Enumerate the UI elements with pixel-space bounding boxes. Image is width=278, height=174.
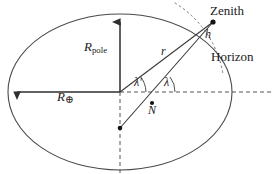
horizon-label: Horizon: [211, 50, 254, 63]
diagram-canvas: Zenith Horizon Rpole R⊕ r h λ′ λ N: [0, 0, 278, 174]
normal-origin-point: [118, 126, 123, 131]
r-pole-subscript: pole: [92, 45, 107, 55]
r-earth-label: R⊕: [57, 90, 74, 106]
r-pole-symbol: R: [84, 39, 92, 54]
radius-r-label: r: [161, 45, 166, 57]
height-h-label: h: [205, 28, 211, 40]
zenith-label: Zenith: [210, 4, 244, 17]
lambda-label: λ: [164, 76, 169, 88]
r-earth-subscript: ⊕: [65, 94, 74, 105]
lambda-angle-arc: [170, 77, 175, 92]
n-point-label: N: [148, 104, 156, 116]
zenith-point: [210, 19, 215, 24]
r-pole-label: Rpole: [84, 40, 107, 55]
r-earth-symbol: R: [57, 89, 65, 104]
lambda-prime-label: λ′: [134, 76, 142, 88]
